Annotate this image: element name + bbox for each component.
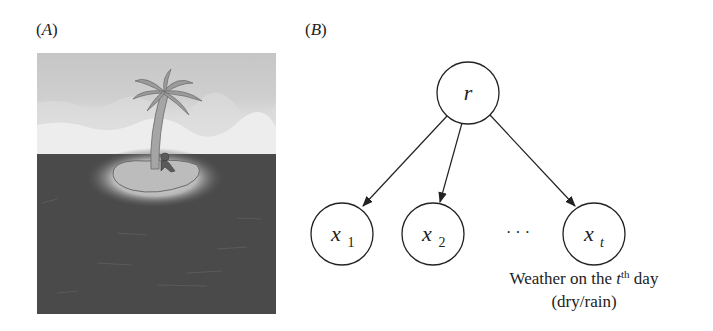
ellipsis: · · · [506,224,530,241]
node-r-label: r [464,80,473,105]
node-x2-subscript: 2 [439,235,446,250]
node-x2-label: x [421,221,432,246]
edge-r-x2 [440,123,462,202]
node-x1-subscript: 1 [348,235,355,250]
caption-line-2: (dry/rain) [474,292,694,312]
node-r: r [437,62,499,124]
node-x1: x 1 [311,203,373,265]
node-x1-label: x [330,221,341,246]
node-xt: x t [563,203,625,265]
node-x2: x 2 [402,203,464,265]
edge-r-x1 [363,116,447,206]
edge-r-xt [490,115,575,206]
node-xt-label: x [583,221,594,246]
caption-line-1: Weather on the tth day [474,268,694,289]
